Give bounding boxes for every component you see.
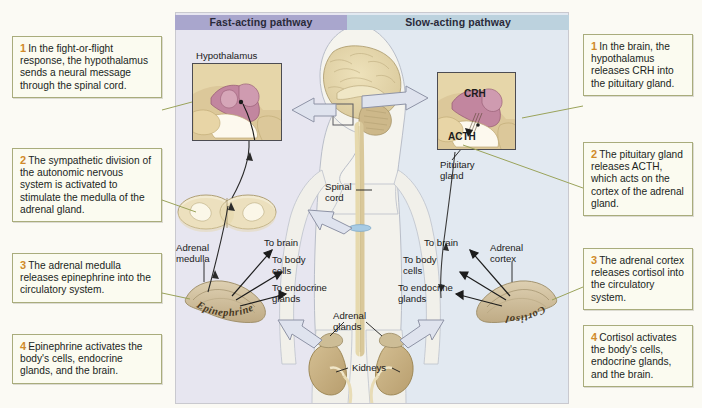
slow-pathway-panel — [347, 12, 569, 404]
callout-left-4-number: 4 — [20, 340, 26, 352]
label-adrenal-cortex: Adrenal cortex — [490, 243, 523, 265]
callout-left-3-text: The adrenal medulla releases epinephrine… — [20, 260, 151, 295]
label-hypothalamus: Hypothalamus — [196, 51, 257, 62]
callout-right-2-text: The pituitary gland releases ACTH, which… — [591, 149, 684, 209]
callout-right-3[interactable]: 3The adrenal cortex releases cortisol in… — [583, 248, 693, 310]
label-to-brain-right: To brain — [424, 238, 458, 249]
label-pituitary-gland: Pituitary gland — [440, 160, 475, 182]
callout-left-2-text: The sympathetic division of the autonomi… — [20, 155, 151, 215]
callout-right-1-number: 1 — [591, 40, 597, 52]
label-to-brain-left: To brain — [264, 238, 298, 249]
callout-right-2[interactable]: 2The pituitary gland releases ACTH, whic… — [583, 142, 693, 216]
callout-right-3-number: 3 — [591, 254, 597, 266]
callout-right-3-text: The adrenal cortex releases cortisol int… — [591, 255, 684, 303]
label-crh: CRH — [464, 89, 486, 100]
callout-right-4-text: Cortisol activates the body's cells, end… — [591, 332, 677, 380]
callout-left-2[interactable]: 2The sympathetic division of the autonom… — [12, 148, 162, 222]
label-to-body-cells-left: To body cells — [272, 255, 306, 277]
label-kidneys: Kidneys — [352, 363, 386, 374]
label-adrenal-medulla: Adrenal medulla — [176, 243, 210, 265]
label-to-endocrine-glands-left: To endocrine glands — [272, 283, 327, 305]
callout-left-3-number: 3 — [20, 259, 26, 271]
callout-left-1-text: In the fight-or-flight response, the hyp… — [20, 43, 148, 91]
callout-left-1[interactable]: 1In the fight-or-flight response, the hy… — [12, 36, 162, 98]
callout-left-4[interactable]: 4Epinephrine activates the body's cells,… — [12, 334, 162, 384]
callout-left-3[interactable]: 3The adrenal medulla releases epinephrin… — [12, 253, 162, 303]
callout-right-4-number: 4 — [591, 331, 597, 343]
callout-left-2-number: 2 — [20, 154, 26, 166]
callout-right-4[interactable]: 4Cortisol activates the body's cells, en… — [583, 325, 693, 387]
label-spinal-cord: Spinal cord — [325, 182, 352, 204]
callout-right-1[interactable]: 1In the brain, the hypothalamus releases… — [583, 34, 693, 96]
hypothalamus-inset — [192, 63, 282, 141]
label-to-body-cells-right: To body cells — [403, 255, 437, 277]
callout-right-2-number: 2 — [591, 148, 597, 160]
label-adrenal-glands: Adrenal glands — [333, 311, 366, 333]
label-acth: ACTH — [448, 132, 476, 143]
callout-right-1-text: In the brain, the hypothalamus releases … — [591, 41, 674, 89]
header-slow-acting-pathway: Slow-acting pathway — [347, 15, 569, 30]
stress-response-diagram: Fast-acting pathway Slow-acting pathway — [0, 0, 702, 408]
header-fast-acting-pathway: Fast-acting pathway — [175, 15, 347, 30]
label-to-endocrine-glands-right: To endocrine glands — [398, 283, 453, 305]
callout-left-1-number: 1 — [20, 42, 26, 54]
callout-left-4-text: Epinephrine activates the body's cells, … — [20, 341, 143, 376]
